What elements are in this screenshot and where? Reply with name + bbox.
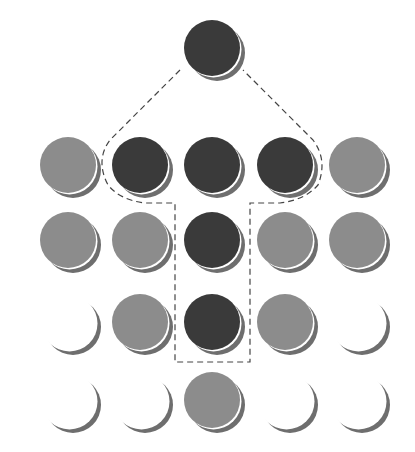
node-dark-r1c3 — [184, 137, 245, 198]
node-dark-r3c3 — [184, 294, 245, 355]
node-circle — [184, 372, 240, 428]
node-grid — [40, 20, 390, 433]
node-circle — [40, 137, 96, 193]
node-gray-r4c3 — [184, 372, 245, 433]
node-gray-r2c5 — [329, 212, 390, 273]
node-circle — [329, 372, 385, 428]
node-dark-r2c3 — [184, 212, 245, 273]
node-circle — [257, 294, 313, 350]
node-circle — [257, 372, 313, 428]
node-gray-r1c1 — [40, 137, 101, 198]
node-gray-r2c4 — [257, 212, 318, 273]
node-dark-r1c2 — [112, 137, 173, 198]
node-circle — [184, 20, 240, 76]
node-gray-r2c2 — [112, 212, 173, 273]
node-circle — [184, 294, 240, 350]
node-circle — [40, 294, 96, 350]
node-gray-r2c1 — [40, 212, 101, 273]
node-empty-r4c1 — [40, 372, 101, 433]
node-dark-top — [184, 20, 245, 81]
node-empty-r4c4 — [257, 372, 318, 433]
node-gray-r1c5 — [329, 137, 390, 198]
node-circle — [257, 212, 313, 268]
node-circle — [329, 294, 385, 350]
node-circle — [329, 212, 385, 268]
node-gray-r3c4 — [257, 294, 318, 355]
node-circle — [257, 137, 313, 193]
node-diagram — [0, 0, 415, 452]
node-empty-r4c5 — [329, 372, 390, 433]
node-circle — [112, 137, 168, 193]
node-circle — [112, 294, 168, 350]
node-circle — [112, 212, 168, 268]
node-empty-r3c1 — [40, 294, 101, 355]
node-circle — [40, 212, 96, 268]
node-empty-r4c2 — [112, 372, 173, 433]
node-circle — [40, 372, 96, 428]
node-empty-r3c5 — [329, 294, 390, 355]
node-dark-r1c4 — [257, 137, 318, 198]
node-circle — [184, 137, 240, 193]
node-circle — [184, 212, 240, 268]
node-circle — [329, 137, 385, 193]
node-gray-r3c2 — [112, 294, 173, 355]
node-circle — [112, 372, 168, 428]
